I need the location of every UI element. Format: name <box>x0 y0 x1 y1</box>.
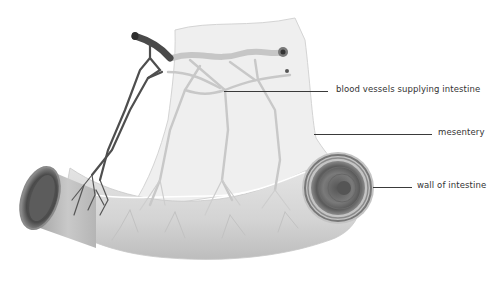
intestine-diagram <box>0 0 499 281</box>
dark-vessel-branches <box>92 44 162 180</box>
dark-vessel <box>135 36 170 58</box>
leader-line-wall <box>373 187 412 188</box>
label-wall-of-intestine: wall of intestine <box>417 180 486 190</box>
leader-line-blood-vessels <box>224 91 328 92</box>
label-blood-vessels: blood vessels supplying intestine <box>336 84 480 94</box>
leader-line-mesentery <box>314 134 432 135</box>
label-mesentery: mesentery <box>438 127 485 137</box>
